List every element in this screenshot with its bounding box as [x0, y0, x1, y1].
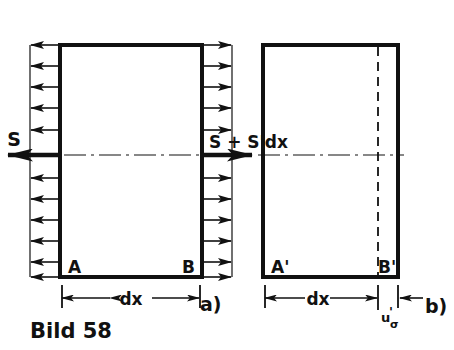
label-gap-u-subscript: σ: [390, 318, 399, 331]
figure-svg: S S + S'dx A B dx a) A': [0, 0, 454, 350]
dimension-dx-b: [265, 285, 423, 310]
label-corner-a-prime: A': [271, 257, 289, 277]
label-gap-u-sigma: u ' σ: [381, 304, 399, 331]
label-corner-b-prime: B': [378, 257, 396, 277]
distributed-load-right: [202, 45, 232, 277]
figure-container: S S + S'dx A B dx a) A': [0, 0, 454, 350]
distributed-load-left: [30, 45, 60, 277]
panel-b: A' B' dx u ' σ b): [258, 45, 447, 331]
label-panel-tag-b: b): [425, 295, 447, 317]
label-gap-u-prime: ': [389, 304, 393, 319]
label-panel-tag-a: a): [200, 293, 222, 315]
label-force-s-right: S + S'dx: [209, 132, 288, 152]
panel-a: S S + S'dx A B dx a): [7, 45, 288, 315]
label-dimension-dx-a: dx: [119, 289, 142, 309]
element-outline-a: [60, 45, 202, 277]
label-force-s-left: S: [7, 128, 21, 150]
label-dimension-dx-b: dx: [306, 289, 329, 309]
label-corner-b: B: [182, 257, 195, 277]
label-corner-a: A: [68, 257, 82, 277]
figure-caption: Bild 58: [30, 319, 112, 343]
